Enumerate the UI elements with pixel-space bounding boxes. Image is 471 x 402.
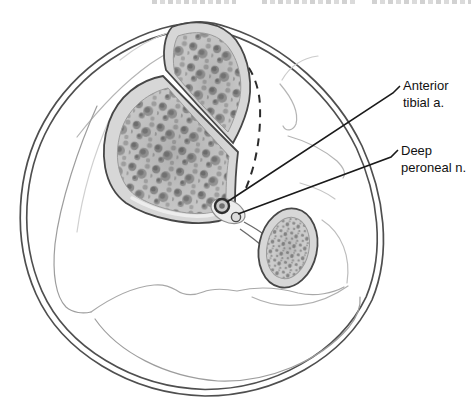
muscle-contour: [95, 297, 360, 381]
label-line: peroneal n.: [401, 159, 466, 176]
anatomy-illustration: [0, 0, 471, 402]
muscle-contour: [54, 106, 97, 313]
label-deep-peroneal-n: Deep peroneal n.: [401, 142, 466, 176]
fragment-shading: [182, 36, 242, 128]
label-line: Deep: [401, 142, 466, 159]
figure-page: Anterior tibial a. Deep peroneal n.: [0, 0, 471, 402]
fibula-group: [251, 203, 324, 293]
leader-line-anterior-tibial-a: [227, 86, 400, 202]
label-anterior-tibial-a: Anterior tibial a.: [403, 77, 449, 111]
muscle-contour: [280, 84, 297, 130]
label-line: Anterior: [403, 77, 449, 94]
muscle-contour: [252, 286, 348, 305]
muscle-contour: [300, 183, 335, 199]
artery-lumen: [219, 203, 225, 209]
muscle-contour: [91, 285, 344, 312]
muscle-contour: [322, 220, 348, 283]
label-line: tibial a.: [403, 94, 449, 111]
